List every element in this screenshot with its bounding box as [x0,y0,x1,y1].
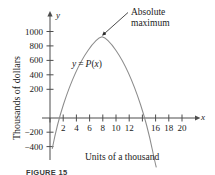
function-label-rparen: ) [99,59,102,69]
annotation-leader-line [105,13,129,34]
absolute-maximum-line-2: maximum [131,18,170,29]
y-tick-label-600: 600 [14,56,43,65]
function-label-eq: = [78,59,83,69]
absolute-maximum-line-1: Absolute [131,7,170,18]
y-tick-label-minus-200: −200 [11,128,43,137]
y-tick-label-400: 400 [14,71,43,80]
function-label: y=P(x) [72,60,102,70]
y-tick-label-1000: 1000 [14,28,43,37]
function-label-y: y [72,59,76,69]
parabola-curve [52,37,156,167]
x-tick-label-20: 20 [174,124,191,133]
x-tick-label-6: 6 [83,124,97,133]
x-axis-name: x [201,113,205,122]
absolute-maximum-annotation: Absolute maximum [131,7,170,28]
y-tick-label-minus-400: −400 [11,143,43,152]
y-tick-label-800: 800 [14,42,43,51]
units-of-a-thousand-note: Units of a thousand [85,153,159,163]
y-tick-label-200: 200 [14,85,43,94]
x-tick-label-2: 2 [56,124,70,133]
x-tick-label-12: 12 [121,124,138,133]
figure-caption: FIGURE 15 [26,168,67,175]
y-axis-name: y [56,11,60,20]
figure-container: Thousands of dollars y x 1000 800 600 40… [0,0,215,175]
x-tick-label-4: 4 [69,124,83,133]
